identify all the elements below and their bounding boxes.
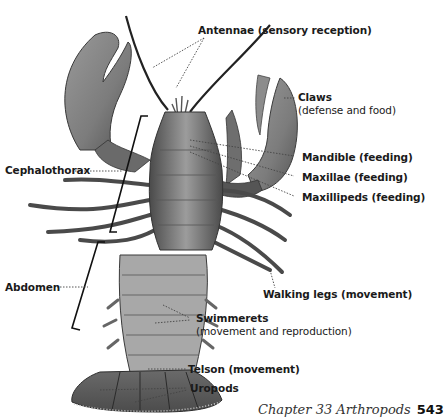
label-swimmerets-sub: (movement and reproduction)	[196, 325, 352, 338]
label-walking-legs: Walking legs (movement)	[263, 288, 412, 301]
label-mandible: Mandible (feeding)	[302, 151, 413, 164]
label-claws-sub: (defense and food)	[298, 104, 396, 117]
footer-page-number: 543	[417, 402, 444, 417]
page-footer: Chapter 33 Arthropods543	[258, 402, 444, 417]
label-cephalothorax: Cephalothorax	[5, 164, 90, 177]
label-antennae: Antennae (sensory reception)	[198, 24, 372, 37]
label-claws: Claws (defense and food)	[298, 91, 396, 117]
label-uropods: Uropods	[190, 382, 239, 395]
cephalothorax-bracket	[110, 116, 148, 232]
footer-chapter: Chapter 33 Arthropods	[258, 402, 411, 417]
label-swimmerets: Swimmerets (movement and reproduction)	[196, 312, 352, 338]
label-claws-title: Claws	[298, 91, 332, 103]
label-telson: Telson (movement)	[188, 363, 300, 376]
label-swimmerets-title: Swimmerets	[196, 312, 268, 324]
cephalothorax-shape	[149, 112, 222, 250]
label-maxillae: Maxillae (feeding)	[302, 171, 408, 184]
abdomen-bracket	[72, 242, 105, 330]
label-maxillipeds: Maxillipeds (feeding)	[302, 191, 425, 204]
label-abdomen: Abdomen	[5, 281, 60, 294]
